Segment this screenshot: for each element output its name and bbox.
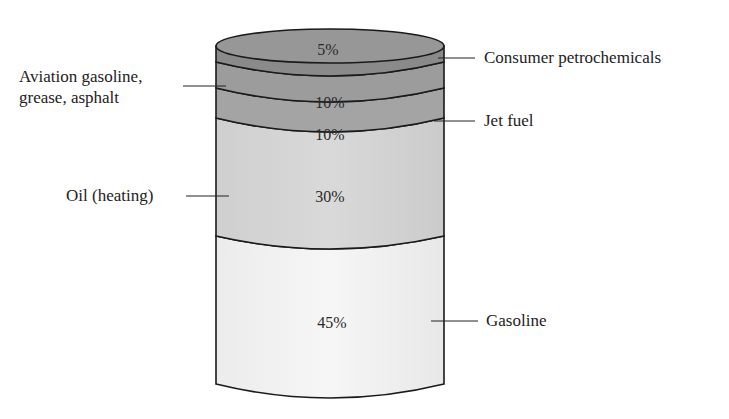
pct-jet: 10% bbox=[315, 126, 344, 143]
pct-aviation: 10% bbox=[315, 94, 344, 111]
label-jet-fuel: Jet fuel bbox=[484, 111, 534, 131]
label-gasoline: Gasoline bbox=[486, 311, 546, 331]
label-oil-heating: Oil (heating) bbox=[66, 186, 153, 206]
label-consumer-petrochemicals: Consumer petrochemicals bbox=[484, 48, 661, 68]
pct-gasoline: 45% bbox=[317, 314, 346, 331]
label-aviation-line1: Aviation gasoline, bbox=[19, 67, 142, 87]
pct-consumer: 5% bbox=[317, 41, 338, 58]
pct-oil: 30% bbox=[315, 188, 344, 205]
label-aviation-line2: grease, asphalt bbox=[19, 88, 119, 108]
